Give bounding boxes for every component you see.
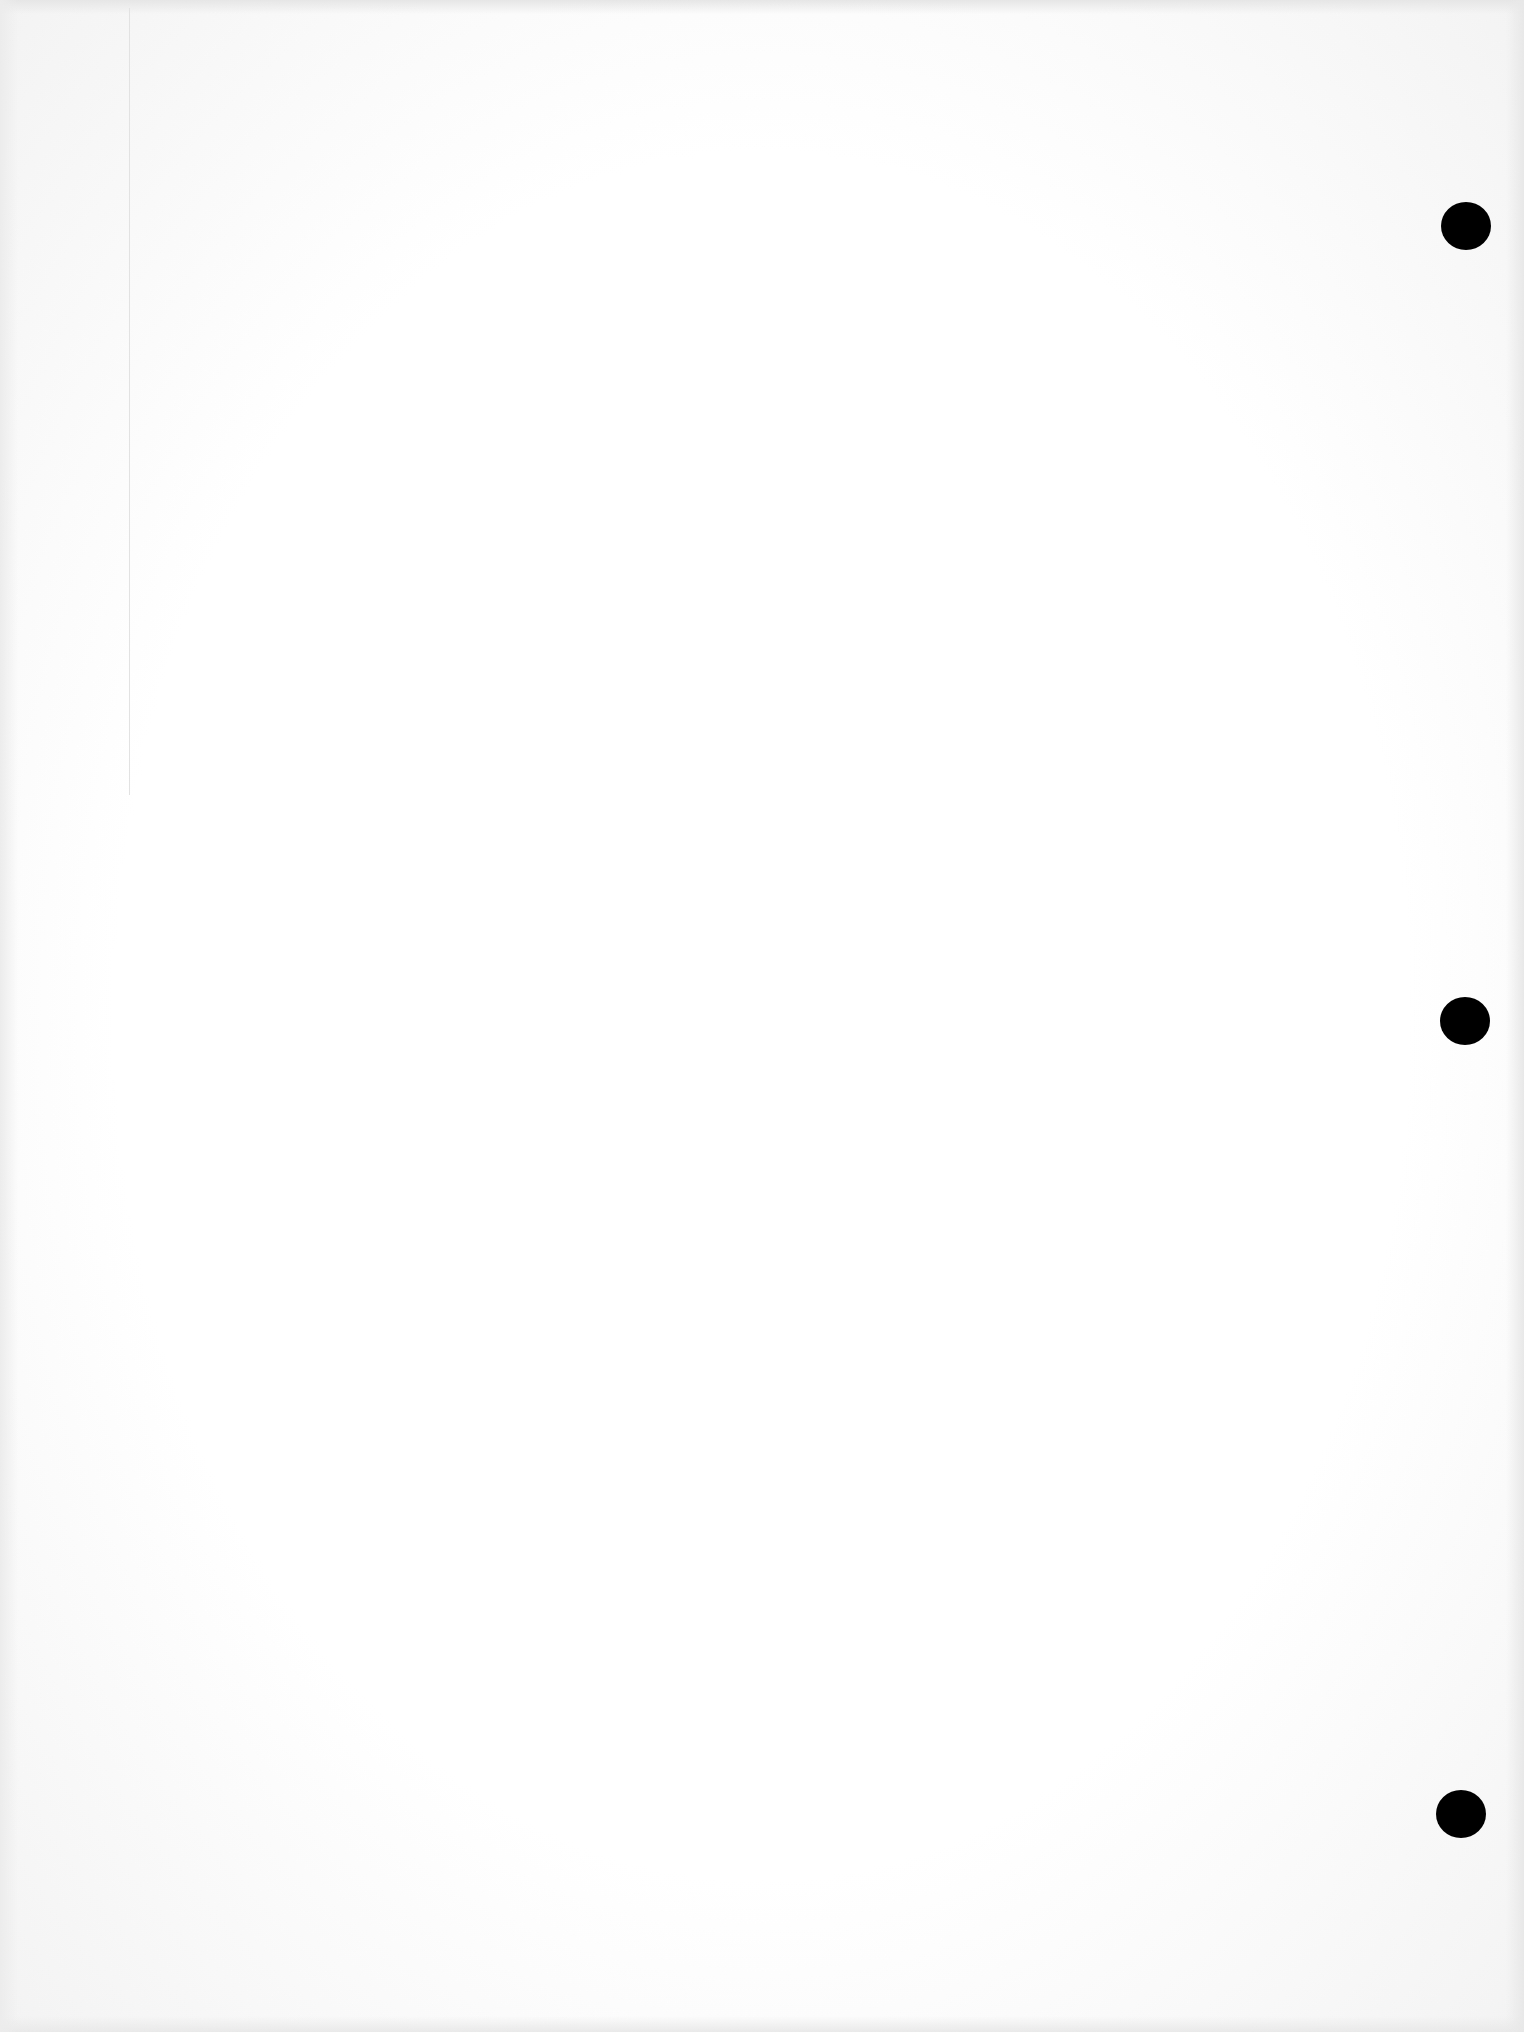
paper-sheet (0, 0, 1524, 2032)
paper-bottom-edge (0, 2016, 1524, 2032)
punch-hole-bottom (1436, 1790, 1486, 1838)
punch-hole-top (1441, 202, 1491, 250)
paper-top-edge (0, 0, 1524, 14)
paper-left-edge (0, 0, 18, 2032)
paper-right-edge (1506, 0, 1524, 2032)
margin-line (129, 8, 130, 795)
punch-hole-middle (1440, 997, 1490, 1045)
